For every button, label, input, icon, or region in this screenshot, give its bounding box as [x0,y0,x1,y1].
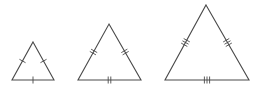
tick-mark [182,41,188,44]
tick-mark [121,49,127,52]
tick-mark [224,41,230,44]
triangles-diagram [0,0,257,94]
triangle-small [12,42,54,84]
tick-mark [19,59,25,62]
triangle-medium-tick-marks [90,49,129,83]
tick-mark [40,59,46,62]
tick-mark [181,43,187,46]
triangle-medium-outline [78,24,141,80]
triangle-small-outline [12,42,54,80]
triangle-large-tick-marks [181,39,232,84]
triangle-large [165,5,249,84]
tick-mark [91,49,97,52]
tick-mark [223,39,229,42]
tick-mark [184,39,190,42]
tick-mark [90,51,96,54]
triangle-medium [78,24,141,84]
triangle-large-outline [165,5,249,80]
tick-mark [226,43,232,46]
tick-mark [123,51,129,54]
